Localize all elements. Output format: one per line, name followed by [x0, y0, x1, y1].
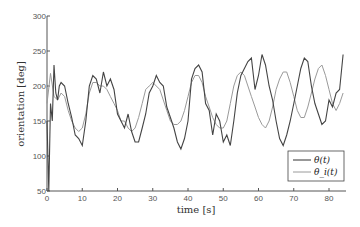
y-tick-label: 250 [33, 47, 47, 56]
legend-label-theta-i: θ_i(t) [314, 167, 338, 178]
legend-label-theta: θ(t) [314, 155, 331, 165]
x-tick-label: 40 [184, 194, 193, 203]
x-tick-label: 80 [325, 194, 334, 203]
x-tick-label: 10 [78, 194, 87, 203]
x-tick-label: 70 [289, 194, 298, 203]
chart: 50100150200250300 01020304050607080 time… [0, 0, 360, 227]
y-axis-label: orientation [deg] [15, 61, 26, 147]
y-tick-label: 200 [33, 82, 47, 91]
x-ticks: 01020304050607080 [45, 188, 334, 203]
series-theta-i [47, 65, 343, 132]
x-tick-label: 50 [219, 194, 228, 203]
y-tick-label: 100 [33, 152, 47, 161]
x-tick-label: 0 [45, 194, 50, 203]
legend: θ(t) θ_i(t) [288, 151, 344, 181]
x-axis-label: time [s] [177, 204, 216, 215]
x-tick-label: 20 [113, 194, 122, 203]
x-tick-label: 30 [148, 194, 157, 203]
y-tick-label: 300 [33, 12, 47, 21]
x-tick-label: 60 [254, 194, 263, 203]
y-tick-label: 150 [33, 117, 47, 126]
